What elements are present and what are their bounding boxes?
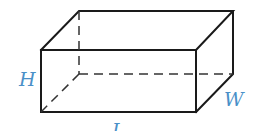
height-label: H	[18, 68, 36, 90]
width-label: W	[224, 88, 245, 110]
visible-edges	[41, 11, 233, 112]
top-face	[41, 11, 233, 50]
hidden-depth-edge	[41, 74, 79, 112]
front-face	[41, 50, 196, 112]
hidden-edges	[41, 11, 233, 112]
length-label: L	[111, 119, 125, 131]
box-diagram: H W L	[0, 0, 257, 131]
